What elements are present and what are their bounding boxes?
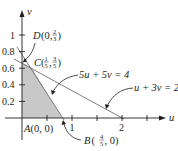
v-axis-arrow-icon — [20, 10, 25, 17]
point-b-label: B( — [84, 135, 95, 147]
point-c-frac2-den: 5 — [53, 62, 56, 69]
line1-leader — [53, 75, 78, 92]
v-axis-label: v — [27, 6, 32, 17]
feasible-region — [22, 63, 62, 119]
point-d-frac-num: 2 — [53, 28, 56, 35]
line2-leader — [107, 88, 133, 106]
point-b-arrow-icon — [62, 120, 67, 125]
u-tick-1: 1 — [70, 122, 75, 133]
u-axis-arrow-icon — [159, 116, 166, 121]
point-d-close: ) — [58, 30, 62, 42]
v-tick-1: 1 — [10, 30, 15, 41]
point-c-close: ) — [58, 57, 62, 69]
point-a-label: A(0, 0) — [23, 123, 54, 135]
line2-equation: u + 3v = 2 — [134, 82, 178, 93]
point-c-frac1-den: 5 — [45, 62, 48, 69]
point-c-frac1-num: 1 — [45, 55, 48, 62]
point-d-letter: D — [32, 30, 41, 41]
v-tick-0.4: 0.4 — [2, 79, 15, 90]
u-tick-2: 2 — [119, 122, 124, 133]
u-axis-label: u — [169, 112, 174, 123]
v-tick-0.8: 0.8 — [2, 46, 15, 57]
line1-equation: 5u + 5v = 4 — [79, 69, 130, 80]
point-d-open: (0, — [41, 30, 52, 42]
v-tick-0.2: 0.2 — [2, 96, 15, 107]
point-c-comma: , — [49, 57, 52, 68]
linear-programming-diagram: v u 1 0.8 0.6 0.4 0.2 1 2 A(0, 0) B( 4 5… — [0, 0, 178, 151]
point-b-frac-den: 5 — [100, 140, 103, 147]
v-tick-0.6: 0.6 — [2, 63, 15, 74]
line1-arrow-icon — [51, 90, 56, 95]
point-d-frac-den: 3 — [53, 35, 56, 42]
point-b-label-rest: , 0) — [105, 135, 120, 147]
point-b-frac-num: 4 — [100, 133, 104, 140]
line2-arrow-icon — [105, 104, 110, 109]
point-c-frac2-num: 3 — [53, 55, 56, 62]
